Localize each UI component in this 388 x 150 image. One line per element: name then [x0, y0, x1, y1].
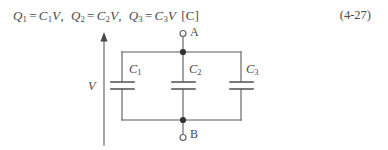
- voltage-arrow-head: [100, 32, 107, 42]
- capacitor-3-label: C3: [246, 62, 259, 77]
- terminal-a-label: A: [190, 25, 199, 40]
- capacitor-1-label: C1: [129, 62, 142, 77]
- terminal-b-open-circle: [180, 135, 186, 141]
- voltage-label: V: [88, 79, 96, 94]
- junction-node-bottom: [180, 117, 186, 123]
- circuit-diagram: C1 C2 C3 V A B: [0, 0, 388, 150]
- terminal-b-label: B: [190, 127, 198, 142]
- junction-node-top: [180, 49, 186, 55]
- terminal-a-open-circle: [180, 31, 186, 37]
- capacitor-2-label: C2: [189, 62, 202, 77]
